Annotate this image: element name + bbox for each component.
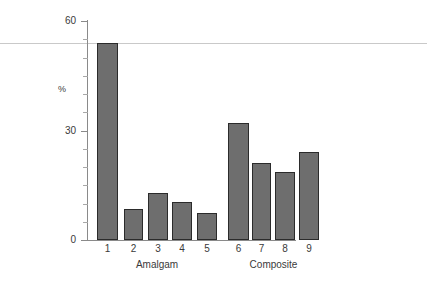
x-tick-label-8: 8 [275, 243, 295, 255]
y-tick-minor [83, 204, 88, 205]
y-tick-major [81, 131, 88, 132]
plot-area: 60300 % 123456789 AmalgamComposite [0, 0, 427, 285]
y-tick-major [81, 240, 88, 241]
y-tick-minor [83, 185, 88, 186]
group-label-amalgam: Amalgam [97, 259, 217, 271]
y-tick-major [81, 21, 88, 22]
y-tick-label-text: 60 [48, 16, 76, 26]
bar-5 [197, 213, 217, 240]
x-tick-label-1: 1 [97, 243, 118, 255]
bar-chart-figure: 60300 % 123456789 AmalgamComposite [0, 0, 427, 285]
x-tick-label-3: 3 [148, 243, 168, 255]
y-tick-label-text: 0 [48, 235, 76, 245]
y-tick-minor [83, 222, 88, 223]
y-tick-label: 60 [48, 16, 76, 26]
bar-9 [299, 152, 319, 240]
y-tick-minor [83, 149, 88, 150]
bar-6 [228, 123, 249, 240]
y-tick-minor [83, 94, 88, 95]
bar-2 [124, 209, 143, 240]
y-tick-minor [83, 167, 88, 168]
y-tick-label: 30 [48, 126, 76, 136]
group-label-composite: Composite [228, 259, 319, 271]
y-axis-title: % [58, 84, 66, 94]
y-tick-label: 0 [48, 235, 76, 245]
bar-4 [172, 202, 192, 240]
bar-3 [148, 193, 168, 240]
x-tick-label-7: 7 [252, 243, 271, 255]
x-tick-label-4: 4 [172, 243, 192, 255]
bar-8 [275, 172, 295, 240]
x-tick-label-6: 6 [228, 243, 249, 255]
x-tick-label-5: 5 [197, 243, 217, 255]
x-axis-spine [87, 240, 296, 241]
y-tick-minor [83, 76, 88, 77]
bar-1 [97, 43, 118, 240]
y-axis-spine [87, 20, 88, 240]
bar-7 [252, 163, 271, 240]
x-tick-label-2: 2 [124, 243, 143, 255]
y-tick-minor [83, 39, 88, 40]
y-tick-minor [83, 58, 88, 59]
y-tick-label-text: 30 [48, 126, 76, 136]
x-tick-label-9: 9 [299, 243, 319, 255]
y-tick-minor [83, 112, 88, 113]
